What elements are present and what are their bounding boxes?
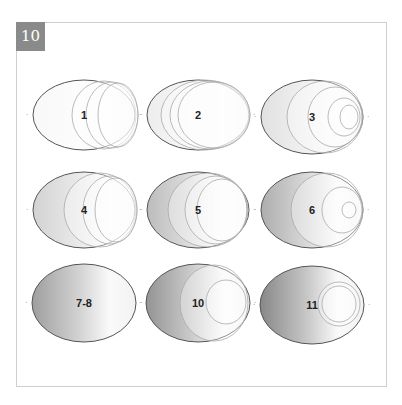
egg-panel-5: 5·· [140, 172, 255, 248]
side-mark: · [140, 206, 142, 213]
stage-label: 10 [192, 297, 204, 309]
shading-ring [178, 82, 250, 148]
egg-shading-stages: 1··2··3··4··5··6··7-8··10··11·· [0, 0, 402, 405]
shading-ring [342, 202, 356, 218]
stage-label: 2 [195, 109, 201, 121]
side-mark: · [140, 111, 142, 118]
egg-panel-6: 6·· [254, 172, 369, 248]
side-mark: · [139, 299, 141, 306]
shading-ring [197, 179, 247, 241]
side-mark: · [26, 206, 28, 213]
egg-panel-4: 4·· [26, 172, 141, 248]
side-mark: · [25, 299, 27, 306]
shading-ring [206, 280, 246, 324]
egg-panel-2: 2·· [140, 80, 255, 150]
side-mark: · [367, 113, 369, 120]
stage-label: 4 [81, 204, 88, 216]
egg-panel-10: 10·· [139, 264, 256, 342]
side-mark: · [367, 206, 369, 213]
shading-ring [95, 178, 137, 242]
shading-ring [322, 286, 356, 322]
side-mark: · [368, 301, 370, 308]
stage-label: 1 [81, 109, 87, 121]
stage-label: 11 [306, 299, 318, 311]
side-mark: · [254, 113, 256, 120]
shading-ring [98, 83, 138, 147]
stage-label: 7-8 [76, 297, 92, 309]
egg-panel-11: 11·· [253, 266, 370, 344]
side-mark: · [253, 301, 255, 308]
side-mark: · [254, 206, 256, 213]
side-mark: · [26, 111, 28, 118]
egg-panel-7-8: 7-8·· [25, 264, 142, 342]
stage-label: 6 [309, 204, 315, 216]
egg-panel-3: 3·· [254, 80, 369, 154]
stage-label: 5 [195, 204, 201, 216]
egg-panel-1: 1·· [26, 80, 141, 150]
shading-ring [340, 105, 358, 129]
stage-label: 3 [309, 111, 315, 123]
